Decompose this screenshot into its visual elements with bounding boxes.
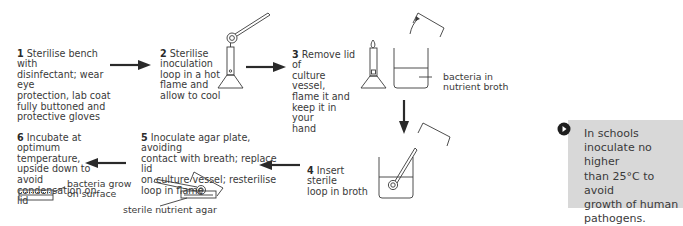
- safety-note-text: In schools inoculate no higher than 25°C…: [584, 127, 683, 226]
- step-1: 1 Sterilise bench with disinfectant; wea…: [17, 38, 112, 123]
- step-3-text: Remove lid of culture vessel, flame it a…: [292, 49, 355, 134]
- step-1-text: Sterilise bench with disinfectant; wear …: [17, 48, 111, 123]
- arrow-icon: [246, 62, 286, 72]
- step-2-number: 2: [160, 48, 167, 59]
- safety-note: In schools inoculate no higher than 25°C…: [568, 120, 683, 208]
- step-4: 4 Insert sterile loop in broth: [307, 155, 372, 197]
- step-5-number: 5: [141, 132, 148, 143]
- bunsen-burner-icon: [361, 40, 386, 88]
- step-6-number: 6: [17, 132, 24, 143]
- step-3: 3 Remove lid of culture vessel, flame it…: [292, 39, 360, 134]
- note-bullet-icon: [557, 122, 571, 136]
- label-bacteria-grow: bacteria grow on surface: [67, 179, 131, 200]
- label-sterile-agar: sterile nutrient agar: [123, 205, 217, 215]
- label-bacteria-in-broth: bacteria in nutrient broth: [443, 72, 508, 93]
- step-1-number: 1: [17, 48, 24, 59]
- step-5-text: Inoculate agar plate, avoiding contact w…: [141, 132, 277, 196]
- culture-vessel-icon: [379, 123, 450, 198]
- culture-vessel-icon: [394, 13, 444, 88]
- arrow-icon: [399, 100, 409, 134]
- step-2-text: Sterilise inoculation loop in a hot flam…: [160, 48, 220, 101]
- step-4-text: Insert sterile loop in broth: [307, 165, 368, 197]
- step-5: 5 Inoculate agar plate, avoiding contact…: [141, 122, 281, 196]
- step-4-number: 4: [307, 165, 314, 176]
- step-2: 2 Sterilise inoculation loop in a hot fl…: [160, 38, 225, 102]
- inoculation-loop-icon: [227, 13, 270, 43]
- step-3-number: 3: [292, 49, 299, 60]
- arrow-icon: [110, 60, 151, 70]
